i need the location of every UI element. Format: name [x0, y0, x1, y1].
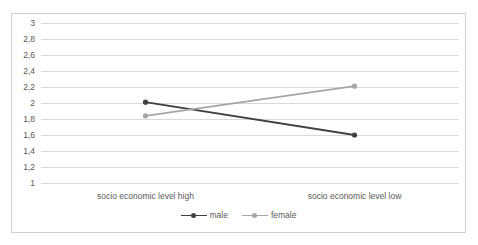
legend-marker-dot: [252, 213, 257, 218]
y-axis-tick-label: 1,4: [23, 146, 35, 156]
series-layer: [41, 23, 459, 183]
y-axis-tick-label: 1,8: [23, 114, 35, 124]
y-axis-tick-label: 2,6: [23, 50, 35, 60]
chart-legend: malefemale: [12, 210, 465, 220]
legend-entry-female[interactable]: female: [242, 210, 297, 220]
y-axis-tick-label: 1,6: [23, 130, 35, 140]
series-line-male: [146, 102, 355, 135]
gridline: [41, 183, 459, 184]
legend-label: male: [210, 210, 228, 220]
data-point-female-0: [143, 113, 148, 118]
x-axis-category-label: socio economic level low: [308, 191, 402, 201]
y-axis-tick-label: 2,4: [23, 66, 35, 76]
y-axis-tick-label: 1,2: [23, 162, 35, 172]
x-axis-category-label: socio economic level high: [97, 191, 194, 201]
legend-key-icon: [242, 211, 268, 220]
legend-key-icon: [181, 211, 207, 220]
data-point-male-1: [352, 132, 357, 137]
data-point-male-0: [143, 100, 148, 105]
legend-marker-dot: [191, 213, 196, 218]
plot-area: 32,82,62,42,221,81,61,41,21: [41, 23, 459, 183]
series-line-female: [146, 86, 355, 116]
y-axis-tick-label: 1: [30, 178, 35, 188]
legend-label: female: [271, 210, 297, 220]
y-axis-tick-label: 2: [30, 98, 35, 108]
chart-frame: 32,82,62,42,221,81,61,41,21 socio econom…: [11, 13, 466, 233]
y-axis-tick-label: 3: [30, 18, 35, 28]
y-axis-tick-label: 2,2: [23, 82, 35, 92]
data-point-female-1: [352, 84, 357, 89]
y-axis-tick-label: 2,8: [23, 34, 35, 44]
legend-entry-male[interactable]: male: [181, 210, 228, 220]
